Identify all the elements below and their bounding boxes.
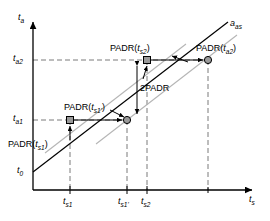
padr-ts1prime-arrow: [110, 110, 124, 117]
diagram-svg: [0, 0, 270, 221]
x-tick-label-ts1prime: ts1': [118, 197, 129, 208]
marker-square-ts2: [144, 57, 151, 64]
x-tick-label-ts1: ts1: [63, 197, 72, 208]
padr-ts2-arrow: [143, 66, 147, 79]
two-padr-label: 2PADR: [140, 84, 169, 93]
padr-ta2-label: PADR(ta2): [196, 44, 236, 55]
y-tick-label-ta2: ta2: [13, 54, 23, 65]
x-axis-label: ts: [249, 195, 255, 206]
vertical-reference-lines: [70, 60, 208, 190]
padr-ts1-label: PADR(ts1): [8, 140, 48, 151]
marker-circle-ta2: [204, 56, 211, 63]
marker-square-ts1: [67, 117, 74, 124]
y-tick-label-t0: t0: [17, 166, 23, 177]
padr-ts1prime-label: PADR(ts1'): [64, 103, 105, 114]
x-tick-label-ts2: ts2: [141, 197, 150, 208]
y-axis-label: ta: [18, 13, 24, 24]
aas-line-label: aas: [230, 19, 242, 30]
horizontal-reference-lines: [33, 60, 208, 120]
marker-circle-ts1prime: [123, 116, 130, 123]
padr-ts2-label: PADR(ts2): [110, 44, 150, 55]
padr-ta2-arrow: [172, 56, 188, 62]
figure-canvas: ta ts ta2 ta1 t0 ts1 ts1' ts2 aas PADR(t…: [0, 0, 270, 221]
y-tick-label-ta1: ta1: [13, 114, 23, 125]
